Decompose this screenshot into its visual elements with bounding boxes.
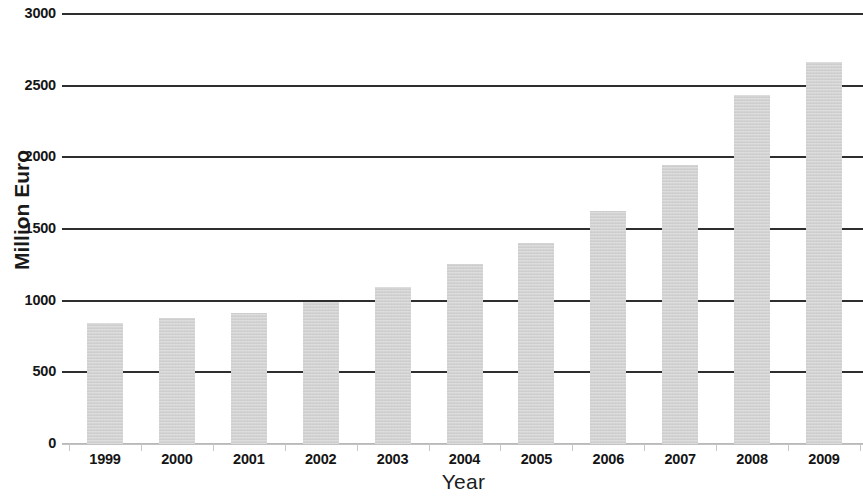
x-axis-title: Year bbox=[0, 470, 863, 494]
bar-2006 bbox=[590, 211, 626, 444]
y-tick-label: 2500 bbox=[0, 77, 56, 93]
x-tick-label-2007: 2007 bbox=[644, 451, 716, 467]
x-tick bbox=[357, 444, 358, 451]
x-tick bbox=[572, 444, 573, 451]
gridline-3000 bbox=[62, 13, 863, 15]
bar-2003 bbox=[375, 287, 411, 444]
y-tick-label: 500 bbox=[0, 363, 56, 379]
x-tick bbox=[213, 444, 214, 451]
x-tick bbox=[500, 444, 501, 451]
bar-2004 bbox=[447, 264, 483, 444]
x-tick bbox=[788, 444, 789, 451]
x-tick-label-2009: 2009 bbox=[788, 451, 860, 467]
x-axis-title-text: Year bbox=[442, 470, 486, 493]
y-axis-tick-labels: 050010001500200025003000 bbox=[0, 0, 56, 444]
x-tick bbox=[644, 444, 645, 451]
x-tick-label-2000: 2000 bbox=[141, 451, 213, 467]
gridline-2500 bbox=[62, 85, 863, 87]
bar-2005 bbox=[518, 243, 554, 444]
x-tick bbox=[716, 444, 717, 451]
bar-2001 bbox=[231, 313, 267, 444]
x-tick bbox=[69, 444, 70, 451]
y-tick-label: 1000 bbox=[0, 292, 56, 308]
y-tick-label: 1500 bbox=[0, 220, 56, 236]
y-tick-label: 3000 bbox=[0, 5, 56, 21]
y-tick-label: 0 bbox=[0, 435, 56, 451]
bar-1999 bbox=[87, 323, 123, 444]
y-tick-label: 2000 bbox=[0, 148, 56, 164]
x-tick-label-2008: 2008 bbox=[716, 451, 788, 467]
x-tick-label-2005: 2005 bbox=[500, 451, 572, 467]
plot-area bbox=[62, 0, 863, 444]
x-tick-label-1999: 1999 bbox=[69, 451, 141, 467]
bar-2007 bbox=[662, 165, 698, 444]
bar-2009 bbox=[806, 62, 842, 444]
x-tick bbox=[141, 444, 142, 451]
bar-chart: Million Euro 050010001500200025003000 Ye… bbox=[0, 0, 863, 498]
x-tick-label-2006: 2006 bbox=[572, 451, 644, 467]
bar-2000 bbox=[159, 318, 195, 444]
x-tick-label-2003: 2003 bbox=[357, 451, 429, 467]
x-tick bbox=[860, 444, 861, 451]
x-axis-line bbox=[62, 444, 863, 445]
x-tick bbox=[429, 444, 430, 451]
x-tick bbox=[285, 444, 286, 451]
bar-2008 bbox=[734, 95, 770, 444]
x-tick-label-2002: 2002 bbox=[285, 451, 357, 467]
x-tick-label-2001: 2001 bbox=[213, 451, 285, 467]
x-tick-label-2004: 2004 bbox=[429, 451, 501, 467]
bar-2002 bbox=[303, 302, 339, 444]
